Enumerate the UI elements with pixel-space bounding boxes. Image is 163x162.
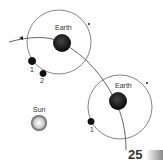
earth-orbit-path bbox=[9, 38, 126, 151]
orbit-marker-1 bbox=[88, 23, 90, 25]
sun-label: Sun bbox=[33, 106, 46, 113]
moon-label-2: 2 bbox=[40, 77, 44, 84]
sun bbox=[31, 115, 47, 131]
earth-label-1: Earth bbox=[55, 24, 72, 31]
moon-1a bbox=[28, 57, 36, 65]
page-edge-bar bbox=[146, 150, 163, 160]
orbit-marker-2 bbox=[146, 82, 148, 84]
earth-label-2: Earth bbox=[115, 82, 132, 89]
moon-label-3: 1 bbox=[90, 126, 94, 133]
moon-1b bbox=[40, 70, 47, 77]
earth-1 bbox=[53, 34, 71, 52]
earth-2 bbox=[109, 92, 127, 110]
moon-label-1: 1 bbox=[30, 66, 34, 73]
moon-2a bbox=[88, 118, 95, 125]
orbit-diagram: Earth 1 2 Earth 1 Sun bbox=[0, 0, 163, 162]
page-number: 25 bbox=[128, 147, 142, 162]
